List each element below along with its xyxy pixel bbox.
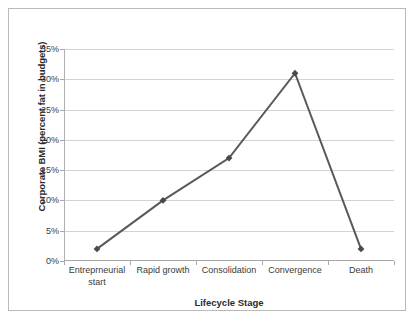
y-axis-tick-label: 15%	[31, 165, 59, 175]
x-axis-tick-label: Entreprneurialstart	[59, 265, 135, 288]
y-axis-tick-label: 35%	[31, 44, 59, 54]
data-point-marker	[358, 245, 365, 252]
y-axis-tick-label: 5%	[31, 226, 59, 236]
x-axis-tick-label-line: Consolidation	[191, 265, 267, 277]
y-axis-tickmark	[60, 79, 64, 80]
x-axis-tick-label-line: start	[59, 277, 135, 289]
x-axis-tick-label: Rapid growth	[125, 265, 201, 277]
chart-container: Corporate BMI (percent fat in budgets) 0…	[8, 8, 406, 311]
x-axis-title: Lifecycle Stage	[64, 297, 394, 308]
y-axis-tick-label: 25%	[31, 105, 59, 115]
plot-area	[64, 49, 394, 261]
x-axis-tick-label: Death	[323, 265, 399, 277]
x-axis-tick-label-line: Rapid growth	[125, 265, 201, 277]
y-axis-tick-label: 20%	[31, 135, 59, 145]
y-axis-tickmark	[60, 200, 64, 201]
data-series-line	[64, 49, 394, 261]
x-axis-tick-label-line: Entreprneurial	[59, 265, 135, 277]
x-axis-tick-label: Consolidation	[191, 265, 267, 277]
x-axis-tick-label-line: Death	[323, 265, 399, 277]
y-axis-tick-label: 30%	[31, 74, 59, 84]
y-axis-tick-labels: 0%5%10%15%20%25%30%35%	[31, 49, 59, 261]
y-axis-tick-label: 0%	[31, 256, 59, 266]
x-axis-tick-labels: EntreprneurialstartRapid growthConsolida…	[64, 265, 394, 299]
x-axis-tick-label-line: Convergence	[257, 265, 333, 277]
x-axis-tick-label: Convergence	[257, 265, 333, 277]
y-axis-tickmark	[60, 110, 64, 111]
y-axis-tickmark	[60, 170, 64, 171]
y-axis-tickmark	[60, 140, 64, 141]
y-axis-tickmark	[60, 231, 64, 232]
y-axis-tickmark	[60, 49, 64, 50]
y-axis-tick-label: 10%	[31, 195, 59, 205]
